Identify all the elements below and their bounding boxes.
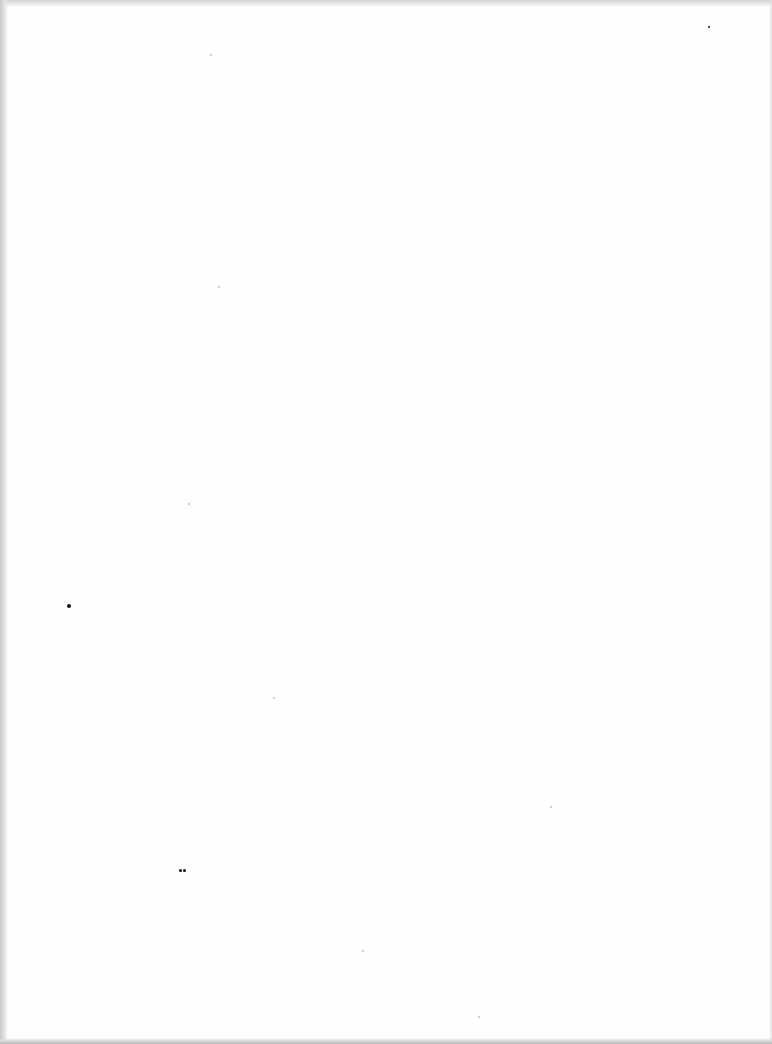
scan-speck [179,869,182,872]
scan-speck [218,286,220,288]
scan-speck [67,604,71,608]
scan-speck [478,1016,480,1018]
scan-speck [273,697,275,699]
scan-edge-left [0,0,8,1044]
scan-speck [362,950,364,952]
scan-speck [550,806,552,808]
scan-speck [188,503,190,505]
scanned-page [0,0,772,1044]
scan-speck [210,54,212,56]
scan-edge-bottom [0,1038,772,1044]
scan-speck [183,869,186,872]
scan-speck [708,26,710,28]
scan-edge-top [0,0,772,7]
